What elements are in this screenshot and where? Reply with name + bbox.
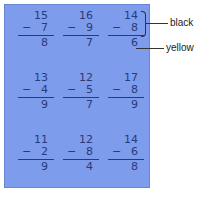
minus-sign: − — [67, 84, 76, 96]
subtraction-problem: 11 −2 9 — [18, 134, 54, 173]
label-yellow: yellow — [166, 42, 194, 53]
subtrahend: 8 — [86, 145, 93, 158]
subtrahend: 8 — [131, 83, 138, 96]
subtraction-problem: 17 −8 9 — [108, 72, 144, 111]
subtrahend-line: −9 — [63, 22, 99, 34]
minus-sign: − — [112, 84, 121, 96]
subtrahend: 5 — [86, 83, 93, 96]
answer-rule — [108, 97, 144, 98]
answer-rule — [63, 35, 99, 36]
subtrahend-line: −4 — [18, 84, 54, 96]
subtraction-problem: 13 −4 9 — [18, 72, 54, 111]
difference: 8 — [108, 161, 144, 173]
answer-rule — [108, 35, 144, 36]
subtrahend: 4 — [41, 83, 48, 96]
subtrahend: 8 — [131, 21, 138, 34]
answer-rule — [18, 159, 54, 160]
minus-sign: − — [22, 84, 31, 96]
subtrahend: 9 — [86, 21, 93, 34]
answer-rule — [63, 159, 99, 160]
difference: 9 — [18, 161, 54, 173]
difference: 9 — [108, 99, 144, 111]
difference: 8 — [18, 37, 54, 49]
minus-sign: − — [67, 22, 76, 34]
minus-sign: − — [67, 146, 76, 158]
subtrahend-line: −5 — [63, 84, 99, 96]
subtrahend-line: −8 — [108, 84, 144, 96]
subtraction-problem: 12 −8 4 — [63, 134, 99, 173]
subtrahend-line: −2 — [18, 146, 54, 158]
difference: 7 — [63, 99, 99, 111]
subtrahend-line: −8 — [63, 146, 99, 158]
subtraction-problem: 14 −8 6 — [108, 10, 144, 49]
minus-sign: − — [112, 22, 121, 34]
bracket-black — [141, 11, 146, 37]
answer-rule — [63, 97, 99, 98]
subtrahend: 7 — [41, 21, 48, 34]
subtraction-problem: 16 −9 7 — [63, 10, 99, 49]
subtrahend-line: −7 — [18, 22, 54, 34]
difference: 9 — [18, 99, 54, 111]
difference: 7 — [63, 37, 99, 49]
subtraction-problem: 12 −5 7 — [63, 72, 99, 111]
subtrahend: 2 — [41, 145, 48, 158]
answer-rule — [108, 159, 144, 160]
difference: 4 — [63, 161, 99, 173]
minus-sign: − — [22, 146, 31, 158]
subtraction-problem: 14 −6 8 — [108, 134, 144, 173]
answer-rule — [18, 97, 54, 98]
leader-line-black — [146, 23, 168, 24]
subtrahend-line: −8 — [108, 22, 144, 34]
subtrahend-line: −6 — [108, 146, 144, 158]
minus-sign: − — [22, 22, 31, 34]
minus-sign: − — [112, 146, 121, 158]
leader-line-yellow — [136, 48, 164, 49]
answer-rule — [18, 35, 54, 36]
subtraction-problem: 15 −7 8 — [18, 10, 54, 49]
subtrahend: 6 — [131, 145, 138, 158]
label-black: black — [170, 17, 193, 28]
